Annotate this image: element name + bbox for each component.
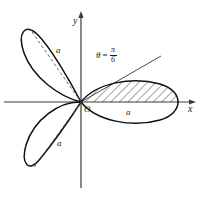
petal-label-right: a xyxy=(126,108,131,117)
shaded-region-group xyxy=(81,70,191,102)
fraction-numerator: π xyxy=(110,46,116,54)
petal-upper-left xyxy=(21,29,81,102)
theta-equation-label: θ = π 6 xyxy=(96,46,117,65)
rose-curve-svg xyxy=(0,0,202,200)
shaded-region-hatch xyxy=(81,70,191,102)
petal-label-upper-left: a xyxy=(56,46,61,55)
x-axis-label: x xyxy=(188,104,192,114)
theta-symbol: θ xyxy=(96,51,100,60)
origin-label: O xyxy=(84,105,91,114)
equals-sign: = xyxy=(102,51,107,60)
y-axis-label: y xyxy=(73,16,77,26)
fraction-denominator: 6 xyxy=(110,56,116,64)
pi-over-six-fraction: π 6 xyxy=(110,46,117,65)
petal-lower-left xyxy=(24,102,81,166)
polar-rose-figure: y x O a a a θ = π 6 xyxy=(0,0,202,200)
y-axis-arrowhead xyxy=(78,11,83,18)
petal-label-lower-left: a xyxy=(57,139,62,148)
